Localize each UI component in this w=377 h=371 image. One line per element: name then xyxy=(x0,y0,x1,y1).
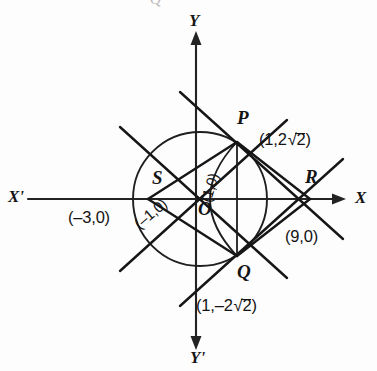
point-label-q: Q xyxy=(237,262,251,281)
coord-p-prefix: (1,2 xyxy=(259,130,287,148)
figure-root: Q X' X Y Y' P Q R S O xyxy=(0,0,377,371)
x-negative-axis-label: X' xyxy=(8,188,24,205)
coord-label-left-intercept: (–3,0) xyxy=(68,209,110,226)
coord-p-suffix: ) xyxy=(305,130,310,148)
sqrt-icon-q: √2 xyxy=(233,297,252,314)
point-label-p: P xyxy=(237,108,249,127)
y-axis-arrow-up-icon xyxy=(191,31,202,45)
coord-q-prefix: (1,–2 xyxy=(196,296,233,314)
geometry-canvas xyxy=(0,0,377,371)
point-label-r: R xyxy=(305,167,318,186)
y-positive-axis-label: Y xyxy=(189,12,199,29)
coord-label-r: (9,0) xyxy=(285,228,318,245)
coord-label-q: (1,–2√2) xyxy=(196,297,257,314)
segment-pr xyxy=(237,142,310,199)
x-axis-arrow-icon xyxy=(332,194,346,205)
sqrt-icon-p: √2 xyxy=(287,131,306,148)
coord-label-p: (1,2√2) xyxy=(259,131,311,148)
coord-q-suffix: ) xyxy=(251,296,256,314)
point-label-s: S xyxy=(152,168,163,187)
x-positive-axis-label: X xyxy=(355,189,366,206)
y-negative-axis-label: Y' xyxy=(190,349,205,366)
